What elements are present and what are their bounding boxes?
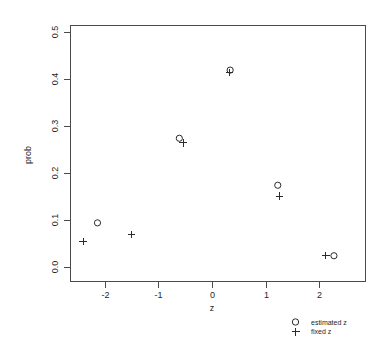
y-axis-tick-labels: 0.0 0.1 0.2 0.3 0.4 0.5 [50, 26, 60, 274]
data-point-estimated-z-1 [176, 135, 182, 141]
data-point-fixed-z-0 [79, 238, 86, 245]
x-axis-title: z [210, 303, 215, 313]
y-tick-label-4: 0.4 [50, 73, 60, 86]
legend-plus-marker-icon [292, 328, 300, 336]
x-axis-tick-labels: -2 -1 0 1 2 [101, 290, 322, 300]
data-point-fixed-z-4 [276, 192, 283, 199]
x-tick-label-3: 1 [264, 290, 269, 300]
plot-canvas: 0.0 0.1 0.2 0.3 0.4 0.5 -2 -1 0 1 2 z pr… [0, 0, 382, 350]
data-point-estimated-z-3 [275, 182, 281, 188]
data-point-fixed-z-2 [179, 139, 186, 146]
data-point-fixed-z-5 [322, 252, 329, 259]
y-axis-ticks [64, 33, 70, 268]
data-point-estimated-z-0 [94, 220, 100, 226]
scatter-plot-figure: 0.0 0.1 0.2 0.3 0.4 0.5 -2 -1 0 1 2 z pr… [0, 0, 382, 350]
series-fixed-z [79, 69, 329, 260]
x-tick-label-1: -1 [154, 290, 162, 300]
data-point-fixed-z-1 [128, 231, 135, 238]
x-tick-label-2: 0 [210, 290, 215, 300]
legend-label-fixed-z: fixed z [311, 328, 332, 335]
legend-label-estimated-z: estimated z [311, 319, 347, 326]
x-axis-ticks [106, 282, 320, 288]
y-axis-title: prob [23, 146, 33, 164]
plot-frame [71, 26, 366, 282]
y-tick-label-2: 0.2 [50, 167, 60, 180]
y-tick-label-3: 0.3 [50, 120, 60, 133]
y-tick-label-1: 0.1 [50, 214, 60, 227]
y-tick-label-0: 0.0 [50, 261, 60, 274]
legend-circle-marker-icon [292, 319, 298, 325]
x-tick-label-4: 2 [317, 290, 322, 300]
data-point-estimated-z-4 [331, 253, 337, 259]
chart-legend: estimated z fixed z [292, 319, 348, 336]
x-tick-label-0: -2 [101, 290, 109, 300]
series-estimated-z [94, 67, 337, 259]
y-tick-label-5: 0.5 [50, 26, 60, 39]
